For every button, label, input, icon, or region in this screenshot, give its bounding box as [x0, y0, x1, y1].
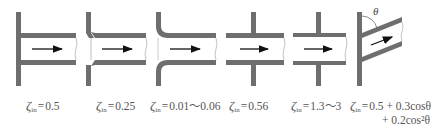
flow-arrow-icon — [371, 37, 392, 45]
diagram-sharp-edged-inlet — [16, 12, 77, 86]
diagram-inclined-inlet: θ — [357, 5, 403, 86]
wall-upper — [251, 12, 256, 33]
label-bell-mouth: ζin=0.01～0.06 — [150, 99, 220, 117]
zeta-value: 0.25 — [115, 100, 135, 112]
pipe-top-wall — [293, 33, 346, 37]
pipe-top-wall — [362, 17, 402, 38]
pipe-top-wall — [21, 33, 76, 38]
zeta-value: 0.5 — [45, 100, 59, 112]
pipe-top-wall — [226, 33, 284, 38]
pipe-bottom-wall — [21, 60, 76, 65]
wall-lower — [316, 65, 321, 86]
wall — [357, 12, 362, 86]
label-inclined-line2: + 0.2cos²θ — [382, 113, 430, 127]
pipe-break-line — [283, 38, 285, 60]
pipe-break-line — [215, 38, 217, 60]
theta-label: θ — [373, 5, 379, 17]
wall-lower — [251, 65, 256, 86]
bell-top — [156, 12, 216, 38]
diagram-protruding-inlet — [293, 12, 347, 86]
chamfer-bottom-edge — [91, 60, 146, 66]
angle-arc — [362, 16, 377, 28]
zeta-value-continuation: + 0.2cos²θ — [382, 114, 430, 126]
label-flanged-reentrant: ζin=0.56 — [229, 99, 268, 117]
zeta-value: 1.3～3 — [310, 100, 341, 112]
label-sharp-edged: ζin=0.5 — [26, 99, 60, 117]
pipe-break-line — [145, 38, 147, 60]
zeta-value: 0.01～0.06 — [169, 100, 220, 112]
pipe-bottom-wall — [362, 41, 402, 62]
pipe-break-line — [345, 37, 347, 61]
wall-upper — [316, 12, 321, 33]
wall-lower — [86, 65, 91, 86]
wall-upper — [86, 12, 91, 33]
pipe-bottom-wall — [293, 61, 346, 65]
pipe-bottom-wall — [226, 60, 284, 65]
diagram-bell-mouth-inlet — [156, 12, 217, 86]
diagram-flanged-reentrant-inlet — [226, 12, 285, 86]
pipe-break-line — [401, 22, 403, 41]
bell-bottom — [156, 60, 216, 86]
label-protruding: ζin=1.3～3 — [291, 99, 341, 117]
zeta-value: 0.5 + 0.3cosθ — [369, 100, 431, 112]
label-chamfered: ζin=0.25 — [96, 99, 135, 117]
pipe-break-line — [75, 38, 77, 60]
chamfer-top-edge — [91, 32, 146, 38]
diagram-chamfered-inlet — [86, 12, 147, 86]
wall — [16, 12, 21, 86]
zeta-value: 0.56 — [248, 100, 268, 112]
